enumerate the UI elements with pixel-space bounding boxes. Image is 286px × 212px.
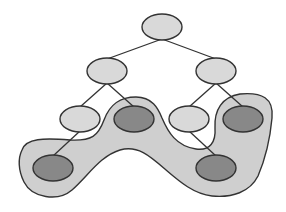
tree-node-n0 (142, 14, 182, 40)
tree-node-n3 (60, 106, 100, 132)
tree-node-n4 (114, 106, 154, 132)
tree-edge (189, 83, 216, 107)
tree-node-n5 (169, 106, 209, 132)
tree-node-n2 (196, 58, 236, 84)
tree-node-n7 (33, 155, 73, 181)
tree-node-n1 (87, 58, 127, 84)
tree-diagram (0, 0, 286, 212)
tree-edge (107, 39, 162, 59)
tree-node-n6 (223, 106, 263, 132)
tree-edge (162, 39, 216, 59)
tree-edge (80, 83, 107, 107)
tree-node-n8 (196, 155, 236, 181)
